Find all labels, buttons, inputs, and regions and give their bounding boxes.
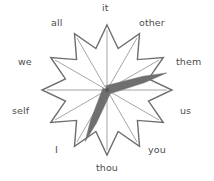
axis-label-them: them [176, 57, 201, 67]
axis-label-we: we [18, 57, 32, 67]
axis-label-self: self [12, 106, 29, 116]
axis-label-it: it [102, 3, 109, 13]
center-hub [105, 88, 109, 92]
axis-label-i: I [55, 145, 58, 155]
axis-label-all: all [51, 18, 62, 28]
axis-label-thou: thou [96, 163, 118, 173]
pronoun-clock-figure: it other them us you thou I self we all [0, 0, 214, 181]
star-clock-graphic [0, 0, 214, 181]
axis-label-us: us [180, 106, 191, 116]
axis-label-other: other [139, 18, 165, 28]
axis-label-you: you [148, 145, 166, 155]
